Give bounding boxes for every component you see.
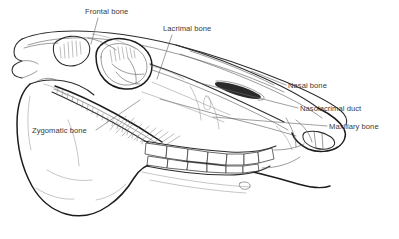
label-nasolacrimal-duct: Nasolacrimal duct	[300, 104, 362, 113]
muzzle-crease-3	[276, 126, 292, 150]
skull-diagram-figure: Frontal bone Lacrimal bone Nasal bone Na…	[0, 0, 399, 239]
mandible-body-line-2	[142, 172, 250, 187]
occipital-condyle	[22, 61, 38, 64]
orbit-ring	[96, 39, 152, 89]
mandible-inner-line-1	[28, 96, 31, 150]
occipital-contour	[12, 39, 22, 78]
mandible-angle-line	[96, 184, 126, 200]
label-zygomatic-bone: Zygomatic bone	[32, 126, 87, 135]
label-lacrimal-bone: Lacrimal bone	[163, 24, 211, 33]
dorsal-profile-outline	[22, 31, 347, 125]
temporal-fossa	[53, 36, 89, 66]
incisor-divider-1	[314, 131, 316, 148]
diastema-line	[274, 144, 304, 150]
occipital-process-detail	[22, 71, 37, 78]
leader-maxillary-bone	[213, 117, 327, 126]
mental-foramen	[239, 182, 250, 189]
mandible-ramus-upper	[30, 80, 94, 95]
incisor-divider-2	[322, 133, 323, 149]
maxilla-surface-line-3	[190, 86, 201, 120]
mandible-inner-line-2	[47, 170, 92, 181]
muzzle-crease-2	[286, 118, 296, 147]
labels-group: Frontal bone Lacrimal bone Nasal bone Na…	[32, 7, 379, 135]
temporal-fossa-detail	[60, 41, 81, 58]
cranial-plate-line	[24, 43, 58, 48]
skull-illustration: Frontal bone Lacrimal bone Nasal bone Na…	[0, 0, 399, 239]
lacrimal-bone-outline	[150, 66, 184, 79]
label-maxillary-bone: Maxillary bone	[329, 122, 379, 131]
nasal-suture-line	[190, 51, 274, 85]
mandible-inner-line-3	[36, 188, 74, 199]
incisor-block	[303, 131, 335, 149]
label-nasal-bone: Nasal bone	[288, 81, 327, 90]
infraorbital-foramen	[204, 96, 211, 110]
label-frontal-bone: Frontal bone	[85, 7, 128, 16]
